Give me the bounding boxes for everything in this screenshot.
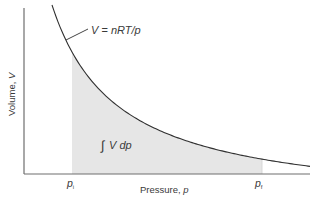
p-initial-label: pi (66, 177, 74, 190)
p-final-label: pf (254, 177, 263, 190)
curve-equation-label: V = nRT/p (91, 24, 141, 36)
curve-label-leader (66, 29, 88, 40)
y-axis-label: Volume, V (6, 71, 17, 116)
integral-label: V dp (109, 139, 132, 151)
x-axis-label: Pressure, p (140, 184, 189, 195)
isotherm-diagram: V = nRT/p ∫ V dp pi pf Pressure, p Volum… (0, 0, 322, 201)
integral-shaded-area (72, 52, 262, 174)
